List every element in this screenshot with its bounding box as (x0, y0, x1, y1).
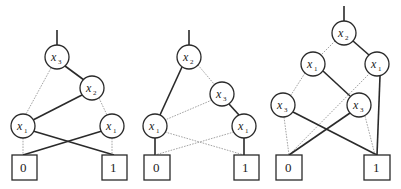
low-edge (165, 132, 244, 155)
svg-text:x: x (276, 98, 283, 112)
svg-text:x: x (215, 87, 222, 101)
bdd-diagram-3: x 2 x 1 x 1 x 3 x 3 0 1 (271, 6, 390, 180)
bdd-node-x1: x 1 (100, 114, 124, 138)
svg-text:0: 0 (285, 160, 292, 175)
svg-text:x: x (148, 119, 155, 133)
bdd-node-x1: x 1 (301, 52, 325, 76)
terminal-1: 1 (364, 155, 390, 180)
svg-text:3: 3 (360, 106, 364, 114)
high-edge (33, 95, 82, 120)
bdd-node-x1: x 1 (232, 114, 256, 138)
svg-text:1: 1 (378, 65, 382, 73)
terminal-0: 0 (144, 155, 170, 180)
high-edge (289, 113, 350, 155)
bdd-node-x2: x 2 (80, 76, 104, 100)
svg-text:x: x (237, 119, 244, 133)
bdd-diagram-2: x 2 x 3 x 1 x 1 0 1 (143, 30, 259, 180)
terminal-0: 0 (12, 155, 37, 180)
svg-text:x: x (50, 50, 57, 64)
svg-text:x: x (337, 26, 344, 40)
high-edge (23, 131, 102, 155)
svg-text:1: 1 (242, 160, 249, 175)
svg-text:x: x (16, 119, 23, 133)
svg-text:2: 2 (190, 58, 194, 66)
low-edge (155, 132, 234, 155)
svg-text:2: 2 (345, 34, 349, 42)
high-edge (377, 76, 380, 155)
svg-text:1: 1 (110, 160, 117, 175)
svg-text:1: 1 (373, 160, 380, 175)
terminal-0: 0 (276, 155, 302, 180)
svg-text:3: 3 (58, 58, 62, 66)
terminal-1: 1 (234, 155, 259, 180)
high-edge (323, 71, 350, 96)
svg-text:x: x (105, 119, 112, 133)
bdd-node-x3: x 3 (210, 82, 234, 106)
svg-text:0: 0 (153, 160, 160, 175)
high-edge (33, 131, 114, 155)
bdd-node-x2: x 2 (177, 45, 201, 69)
bdd-node-x1: x 1 (365, 52, 389, 76)
svg-text:1: 1 (24, 127, 28, 135)
svg-text:1: 1 (245, 127, 249, 135)
svg-text:x: x (352, 98, 359, 112)
low-edge (284, 117, 289, 155)
bdd-figure: x 3 x 2 x 1 x 1 0 1 (0, 0, 401, 189)
svg-text:x: x (182, 50, 189, 64)
bdd-node-x3: x 3 (347, 93, 371, 117)
svg-text:0: 0 (20, 160, 27, 175)
low-edge (198, 65, 214, 84)
bdd-node-x1: x 1 (143, 114, 167, 138)
terminal-1: 1 (102, 155, 127, 180)
bdd-node-x3: x 3 (45, 45, 69, 69)
bdd-node-x2: x 2 (332, 21, 356, 45)
svg-text:x: x (306, 57, 313, 71)
low-edge (291, 73, 305, 95)
svg-text:x: x (370, 57, 377, 71)
high-edge (353, 41, 369, 55)
svg-text:3: 3 (223, 95, 227, 103)
svg-text:1: 1 (113, 127, 117, 135)
low-edge (26, 68, 51, 114)
high-edge (229, 104, 239, 115)
bdd-diagram-1: x 3 x 2 x 1 x 1 0 1 (11, 30, 127, 180)
low-edge (165, 100, 212, 120)
high-edge (65, 66, 84, 80)
svg-text:3: 3 (284, 106, 288, 114)
high-edge (160, 67, 182, 115)
svg-text:x: x (85, 81, 92, 95)
svg-text:2: 2 (93, 89, 97, 97)
svg-text:1: 1 (156, 127, 160, 135)
bdd-node-x1: x 1 (11, 114, 35, 138)
high-edge (293, 112, 377, 155)
bdd-node-x3: x 3 (271, 93, 295, 117)
low-edge (99, 98, 107, 115)
svg-text:1: 1 (314, 65, 318, 73)
low-edge (321, 41, 335, 55)
